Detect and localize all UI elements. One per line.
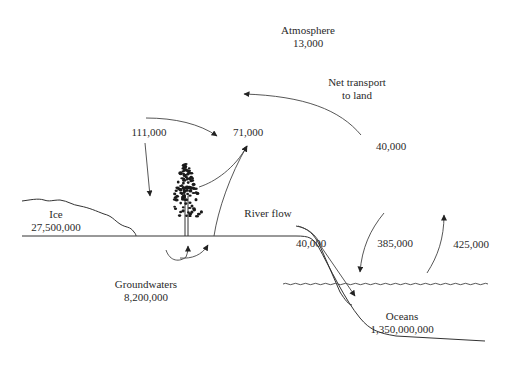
- tree-leaf: [185, 215, 188, 218]
- tree-leaf: [190, 211, 193, 214]
- land-evapotranspiration-value: 71,000: [228, 126, 268, 139]
- tree-leaf: [179, 188, 183, 190]
- tree-leaf: [182, 181, 185, 184]
- oceans-value: 1,350,000,000: [364, 323, 440, 336]
- net-transport-line2: to land: [304, 89, 410, 102]
- arrow-groundwater-return: [180, 245, 208, 258]
- tree-leaf: [188, 215, 191, 217]
- tree-leaf: [192, 183, 196, 186]
- arrow-tree-transpiration: [199, 146, 247, 187]
- tree-leaf: [189, 180, 192, 183]
- tree-leaf: [177, 180, 180, 183]
- tree-icon: [173, 163, 203, 236]
- tree-leaf: [179, 202, 182, 205]
- tree-leaf: [189, 201, 192, 204]
- tree-leaf: [174, 208, 177, 211]
- tree-leaf: [175, 199, 179, 201]
- tree-leaf: [173, 193, 176, 196]
- atmosphere-value: 13,000: [278, 37, 338, 50]
- tree-leaf: [186, 186, 189, 189]
- oceans-name: Oceans: [364, 310, 440, 323]
- groundwaters-label: Groundwaters 8,200,000: [108, 278, 184, 304]
- groundwaters-value: 8,200,000: [108, 291, 184, 304]
- tree-leaf: [193, 208, 197, 211]
- tree-leaf: [188, 207, 192, 209]
- arrow-precipitation-land: [145, 143, 150, 196]
- tree-leaf: [185, 176, 189, 178]
- tree-leaf: [195, 215, 199, 217]
- tree-leaf: [188, 186, 192, 188]
- tree-leaf: [188, 167, 191, 169]
- tree-leaf: [183, 190, 187, 193]
- tree-leaf: [195, 191, 198, 193]
- tree-leaf: [188, 172, 192, 175]
- tree-leaf: [184, 169, 188, 171]
- tree-leaf: [191, 205, 194, 208]
- land-precipitation-value: 111,000: [126, 126, 172, 139]
- net-transport-line1: Net transport: [304, 76, 410, 89]
- tree-leaf: [182, 173, 185, 176]
- net-transport-label: Net transport to land: [304, 76, 410, 102]
- river-flow-label: River flow: [240, 207, 296, 220]
- tree-leaf: [195, 198, 198, 201]
- ice-value: 27,500,000: [28, 221, 84, 234]
- tree-leaf: [175, 195, 179, 198]
- atmosphere-label: Atmosphere 13,000: [278, 24, 338, 50]
- tree-leaf: [178, 171, 182, 174]
- groundwaters-name: Groundwaters: [108, 278, 184, 291]
- tree-leaf: [192, 187, 195, 189]
- ocean-surface-wave: [283, 283, 488, 284]
- tree-leaf: [181, 184, 184, 187]
- tree-leaf: [182, 179, 186, 182]
- tree-leaf: [188, 195, 191, 197]
- tree-leaf: [179, 192, 182, 194]
- ice-name: Ice: [28, 208, 84, 221]
- ocean-precipitation-value: 385,000: [370, 237, 420, 250]
- ice-label: Ice 27,500,000: [28, 208, 84, 234]
- arrow-ground-evaporation: [214, 146, 247, 236]
- net-transport-value: 40,000: [366, 140, 416, 153]
- tree-leaf: [186, 193, 189, 196]
- river-flow-value: 40,000: [288, 237, 334, 250]
- tree-leaf: [182, 206, 185, 208]
- ocean-evaporation-value: 425,000: [446, 238, 496, 251]
- tree-leaf: [183, 164, 186, 166]
- oceans-label: Oceans 1,350,000,000: [364, 310, 440, 336]
- tree-leaf: [188, 189, 192, 192]
- tree-leaf: [175, 189, 178, 192]
- tree-leaf: [178, 214, 181, 217]
- tree-leaf: [187, 181, 190, 184]
- tree-leaf: [183, 196, 186, 199]
- arrow-evaporation-ocean: [427, 215, 444, 273]
- tree-leaf: [182, 209, 185, 212]
- tree-leaf: [173, 206, 176, 208]
- tree-leaf: [200, 210, 203, 213]
- atmosphere-name: Atmosphere: [278, 24, 338, 37]
- tree-leaf: [184, 202, 187, 205]
